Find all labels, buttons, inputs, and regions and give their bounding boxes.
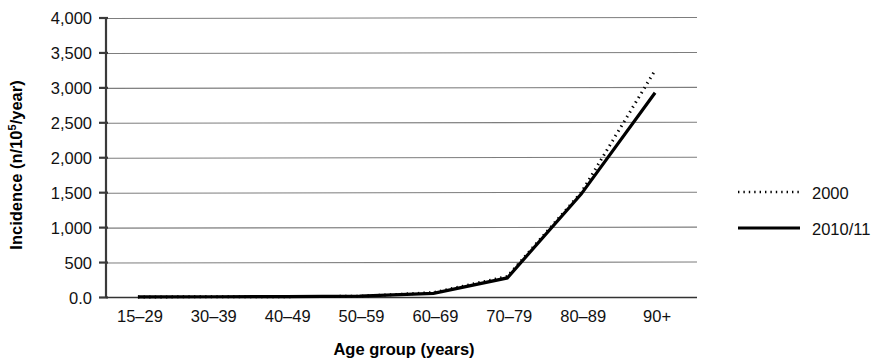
y-tick-label: 2,000 (51, 149, 92, 167)
gridline (106, 52, 697, 53)
x-tick-label: 70–79 (486, 307, 532, 325)
x-axis-title: Age group (years) (333, 340, 474, 358)
x-tick-labels-group: 15–2930–3940–4950–5960–6970–7980–8990+ (117, 307, 671, 325)
legend-label-2000: 2000 (812, 184, 849, 202)
y-tick-labels-group: 0.05001,0001,5002,0002,5003,0003,5004,00… (51, 9, 92, 307)
gridline (106, 192, 697, 193)
gridline (106, 262, 697, 263)
gridline (106, 18, 697, 19)
y-tick-label: 1,000 (51, 219, 92, 237)
x-tick-label: 80–89 (560, 307, 606, 325)
y-axis-title-tail: /year) (7, 80, 25, 124)
legend-label-2010-11: 2010/11 (812, 220, 870, 238)
x-tick-label: 60–69 (412, 307, 458, 325)
legend-item-2000[interactable]: 2000 (738, 184, 849, 202)
gridline (106, 87, 697, 88)
y-tick-label: 0.0 (69, 289, 92, 307)
legend-item-2010-11[interactable]: 2010/11 (738, 220, 870, 238)
x-tick-label: 15–29 (117, 307, 163, 325)
y-tick-label: 4,000 (51, 9, 92, 27)
y-tick-label: 3,000 (51, 79, 92, 97)
gridline (106, 227, 697, 228)
x-tick-label: 40–49 (265, 307, 311, 325)
legend: 2000 2010/11 (738, 184, 870, 238)
y-axis-title: Incidence (n/105/year) (6, 80, 25, 249)
x-tick-label: 50–59 (339, 307, 385, 325)
y-tick-label: 500 (64, 254, 92, 272)
y-axis-title-main: Incidence (n/10 (7, 130, 25, 249)
gridlines-group (106, 18, 697, 264)
x-tick-label: 30–39 (191, 307, 237, 325)
gridline (106, 122, 697, 123)
y-tick-label: 2,500 (51, 114, 92, 132)
x-tick-label: 90+ (643, 307, 671, 325)
chart-svg: 0.05001,0001,5002,0002,5003,0003,5004,00… (0, 0, 874, 361)
incidence-line-chart-figure: 0.05001,0001,5002,0002,5003,0003,5004,00… (0, 0, 874, 361)
y-tick-label: 1,500 (51, 184, 92, 202)
y-tick-label: 3,500 (51, 44, 92, 62)
